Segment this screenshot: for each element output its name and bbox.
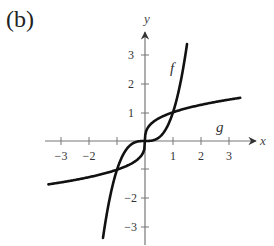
x-tick-label: 2 bbox=[198, 149, 204, 163]
x-tick-label: 1 bbox=[170, 149, 176, 163]
chart-plot: −3 −2 1 2 3 x 3 2 1 −2 −3 y f g bbox=[0, 0, 274, 246]
y-tick-label: −3 bbox=[124, 220, 137, 234]
y-tick-label: 1 bbox=[128, 106, 134, 120]
curve-g-label: g bbox=[216, 119, 224, 135]
x-tick-label: −2 bbox=[83, 149, 96, 163]
x-axis: −3 −2 1 2 3 x bbox=[45, 133, 266, 163]
x-tick-label: 3 bbox=[226, 149, 232, 163]
y-axis-label: y bbox=[142, 11, 150, 26]
curve-f-label: f bbox=[170, 60, 176, 76]
y-tick-label: −2 bbox=[124, 191, 137, 205]
y-tick-label: 3 bbox=[128, 48, 134, 62]
y-tick-label: 2 bbox=[128, 77, 134, 91]
x-axis-label: x bbox=[259, 133, 266, 148]
x-tick-label: −3 bbox=[55, 149, 68, 163]
